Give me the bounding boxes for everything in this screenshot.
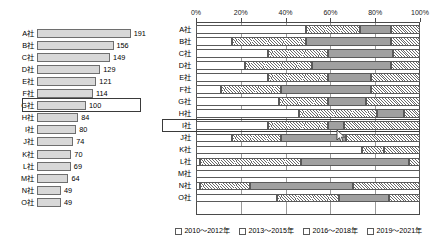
left-row-label: L社 xyxy=(0,162,37,171)
legend-swatch-icon xyxy=(303,228,310,235)
left-bar xyxy=(37,162,71,171)
legend-label: 2016～2018年 xyxy=(313,227,359,236)
stacked-segment xyxy=(306,37,391,46)
left-chart-row: I社80 xyxy=(0,123,140,136)
right-row-label: J社 xyxy=(162,132,194,144)
left-row-label: H社 xyxy=(0,113,37,122)
right-chart-row: O社 xyxy=(162,192,435,204)
left-bar xyxy=(37,53,110,62)
right-chart-row: D社 xyxy=(162,60,435,72)
left-row-label: D社 xyxy=(0,65,37,74)
left-bar-value-label: 149 xyxy=(113,53,125,62)
stacked-segment xyxy=(328,49,393,58)
stacked-segment xyxy=(312,61,390,70)
stacked-segment xyxy=(196,97,279,106)
x-axis-tick-label: 0% xyxy=(191,8,201,17)
legend-item[interactable]: 2016～2018年 xyxy=(303,227,358,236)
stacked-segment xyxy=(196,121,268,130)
left-chart-row: K社70 xyxy=(0,148,140,161)
right-chart-row: J社 xyxy=(162,132,435,144)
left-chart-row: C社149 xyxy=(0,51,140,64)
stacked-segment xyxy=(384,146,420,155)
right-chart-row: G社 xyxy=(162,96,435,108)
stacked-segment xyxy=(268,49,328,58)
stacked-segment xyxy=(389,194,420,203)
left-chart-row: M社64 xyxy=(0,172,140,185)
stacked-segment xyxy=(196,170,420,179)
left-chart-row: A社191 xyxy=(0,27,140,40)
legend-item[interactable]: 2019～2021年 xyxy=(367,227,422,236)
left-bar xyxy=(37,41,114,50)
left-row-label: B社 xyxy=(0,41,37,50)
legend-label: 2013～2015年 xyxy=(248,227,294,236)
right-chart-row: I社 xyxy=(162,120,435,132)
stacked-segment xyxy=(196,134,232,143)
stacked-segment xyxy=(281,85,371,94)
stacked-segment xyxy=(360,25,391,34)
left-row-label: O社 xyxy=(0,198,37,207)
stacked-segment xyxy=(391,37,420,46)
legend-item[interactable]: 2010～2012年 xyxy=(175,227,230,236)
stacked-bar xyxy=(196,37,420,46)
stacked-bar xyxy=(196,25,420,34)
stacked-bar xyxy=(196,170,420,179)
legend-label: 2019～2021年 xyxy=(377,227,423,236)
right-row-label: A社 xyxy=(162,24,194,36)
stacked-segment xyxy=(328,73,371,82)
right-row-label: F社 xyxy=(162,84,194,96)
left-chart-row: F社114 xyxy=(0,87,140,100)
left-bar-value-label: 100 xyxy=(89,101,101,110)
right-stacked-bar-chart: 0%20%40%60%80%100% A社B社C社D社E社F社G社H社I社J社K… xyxy=(162,0,435,247)
stacked-bar xyxy=(196,49,420,58)
left-row-label: C社 xyxy=(0,53,37,62)
legend-swatch-icon xyxy=(175,228,182,235)
right-chart-row: E社 xyxy=(162,72,435,84)
stacked-bar xyxy=(196,121,420,130)
stacked-segment xyxy=(409,158,420,167)
left-chart-row: J社74 xyxy=(0,135,140,148)
right-chart-row: B社 xyxy=(162,36,435,48)
left-bar-value-label: 70 xyxy=(74,150,82,159)
left-bar-value-label: 129 xyxy=(103,65,115,74)
stacked-segment xyxy=(353,182,420,191)
left-row-label: F社 xyxy=(0,89,37,98)
left-chart-row: G社100 xyxy=(0,99,140,112)
left-bar-track: 64 xyxy=(37,174,140,183)
stacked-segment xyxy=(196,85,221,94)
stacked-segment xyxy=(393,49,420,58)
right-chart-row: H社 xyxy=(162,108,435,120)
left-bar-chart: A社191B社156C社149D社129E社121F社114G社100H社84I… xyxy=(0,0,162,247)
right-chart-row: M社 xyxy=(162,168,435,180)
stacked-segment xyxy=(200,182,249,191)
legend-item[interactable]: 2013～2015年 xyxy=(239,227,294,236)
left-bar xyxy=(37,186,61,195)
stacked-segment xyxy=(371,73,420,82)
stacked-bar xyxy=(196,146,420,155)
left-bar xyxy=(37,89,93,98)
right-row-label: O社 xyxy=(162,192,194,204)
stacked-segment xyxy=(196,49,268,58)
right-chart-row: N社 xyxy=(162,180,435,192)
stacked-bar xyxy=(196,61,420,70)
x-axis-tick-label: 80% xyxy=(368,8,382,17)
stacked-segment xyxy=(277,194,340,203)
left-bar-track: 80 xyxy=(37,125,140,134)
left-row-label: K社 xyxy=(0,150,37,159)
right-row-label: C社 xyxy=(162,48,194,60)
right-chart-row: K社 xyxy=(162,144,435,156)
left-bar-track: 191 xyxy=(37,29,140,38)
left-bar-value-label: 49 xyxy=(64,198,72,207)
stacked-segment xyxy=(196,146,362,155)
x-axis-tick-label: 20% xyxy=(234,8,248,17)
left-row-label: A社 xyxy=(0,29,37,38)
right-chart-row: C社 xyxy=(162,48,435,60)
left-bar-track: 84 xyxy=(37,113,140,122)
left-bar-track: 49 xyxy=(37,186,140,195)
stacked-segment xyxy=(371,85,420,94)
left-bar-track: 149 xyxy=(37,53,140,62)
right-chart-row: F社 xyxy=(162,84,435,96)
stacked-segment xyxy=(362,146,384,155)
left-bar xyxy=(37,77,96,86)
left-bar-track: 100 xyxy=(37,101,140,110)
stacked-segment xyxy=(268,73,328,82)
